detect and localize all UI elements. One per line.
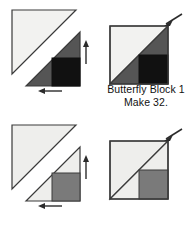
block-1-finished-figure	[108, 12, 188, 86]
block-2-finished-square	[110, 141, 168, 199]
stitch-needle-icon	[164, 129, 182, 141]
block-row-1: Butterfly Block 1 Make 32.	[0, 0, 196, 115]
block-1-caption-line-1: Butterfly Block 1	[96, 83, 196, 96]
press-arrow-horizontal-icon	[38, 88, 62, 94]
block-2-finished-gray-square	[139, 170, 168, 199]
block-1-exploded-figure	[10, 8, 94, 94]
block-2-finished-figure	[108, 127, 188, 201]
block-1-finished-dark-square	[139, 55, 168, 84]
block-row-2: Butterfly Block 2 Make 16.	[0, 115, 196, 229]
press-arrow-vertical-icon	[83, 40, 89, 64]
block-2-exploded-figure	[10, 123, 94, 209]
block-1-finished-square	[110, 26, 168, 84]
press-arrow-vertical-icon	[83, 155, 89, 179]
press-arrow-horizontal-icon	[38, 203, 62, 209]
block-1-dark-square	[52, 58, 80, 86]
block-1-caption: Butterfly Block 1 Make 32.	[96, 83, 196, 108]
stitch-needle-icon	[164, 14, 182, 26]
block-2-gray-square	[52, 173, 80, 201]
diagram-sheet: Butterfly Block 1 Make 32.	[0, 0, 196, 229]
block-1-caption-line-2: Make 32.	[96, 96, 196, 109]
